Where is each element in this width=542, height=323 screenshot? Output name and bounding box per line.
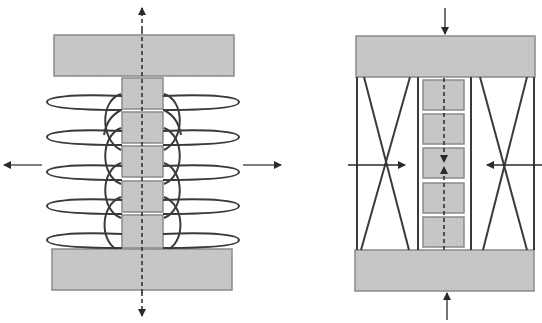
diagram-canvas: schematic-comparison xyxy=(0,0,542,323)
right-bottom-plate xyxy=(355,250,534,291)
left-panel xyxy=(4,8,281,316)
right-panel xyxy=(348,8,542,320)
right-block xyxy=(423,148,464,178)
left-top-plate xyxy=(54,35,234,76)
right-top-plate xyxy=(356,36,535,77)
diagram-svg xyxy=(0,0,542,323)
